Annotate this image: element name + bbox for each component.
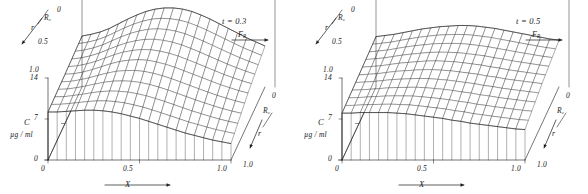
surface-plot-panel-right: r Rc 0.5 1.0 0 14 7 0 C µg / ml 0 0.5 1.… xyxy=(294,0,588,194)
z-axis-label-panel-left: C xyxy=(24,118,30,127)
r-axis-label-right-panel-left: r xyxy=(258,130,261,138)
x-axis-label-panel-left: X xyxy=(125,180,130,189)
rc-tick-left-panel-right: Rc xyxy=(338,14,345,23)
x-tick-0-panel-left: 0 xyxy=(41,165,45,173)
x-direction-arrow-head xyxy=(167,184,170,187)
x-tick-05-panel-left: 0.5 xyxy=(123,165,133,173)
x-axis-label-panel-right: X xyxy=(419,180,424,189)
rc-tick-right-panel-left: Rc xyxy=(263,107,270,116)
r-axis-label-left-panel-left: r xyxy=(31,24,34,32)
x-tick-10-panel-left: 1.0 xyxy=(217,165,227,173)
z-tick-7-panel-left: 7 xyxy=(34,114,38,122)
flow-label-panel-left: FR xyxy=(238,31,246,39)
r-top-tick-right-panel-right: 0 xyxy=(566,92,570,100)
flow-label-panel-right: FR xyxy=(532,31,540,39)
r-top-tick-right-panel-left: 0 xyxy=(272,92,276,100)
r-axis-label-right-panel-right: r xyxy=(552,130,555,138)
x-tick-05-panel-right: 0.5 xyxy=(417,165,427,173)
z-axis-units-panel-left: µg / ml xyxy=(10,131,33,139)
z-tick-7-panel-right: 7 xyxy=(328,114,332,122)
z-tick-14-panel-left: 14 xyxy=(30,74,38,82)
rc-tick-right-panel-right: Rc xyxy=(557,107,564,116)
x-tick-0-panel-right: 0 xyxy=(335,165,339,173)
r-bottom-tick-right-panel-left: 1.0 xyxy=(243,161,253,169)
z-axis-label-panel-right: C xyxy=(318,118,324,127)
surface-plot-panel-left: r Rc 0.5 1.0 0 14 7 0 C µg / ml 0 0.5 1.… xyxy=(0,0,294,194)
flow-direction-arrow-head xyxy=(559,39,562,42)
z-axis-units-panel-right: µg / ml xyxy=(304,131,327,139)
r-direction-arrow-right-head xyxy=(544,144,547,148)
flow-direction-arrow-head xyxy=(265,39,268,42)
r-axis-label-left-panel-right: r xyxy=(325,24,328,32)
r-tick-05-panel-left: 0.5 xyxy=(38,38,48,46)
r-direction-arrow-right-head xyxy=(250,144,253,148)
figure-canvas: r Rc 0.5 1.0 0 14 7 0 C µg / ml 0 0.5 1.… xyxy=(0,0,588,194)
r-top-tick-panel-right: 0 xyxy=(351,6,355,14)
z-tick-14-panel-right: 14 xyxy=(324,74,332,82)
r-tick-05-panel-right: 0.5 xyxy=(332,38,342,46)
z-tick-0-panel-left: 0 xyxy=(34,155,38,163)
r-top-tick-panel-left: 0 xyxy=(57,6,61,14)
x-tick-10-panel-right: 1.0 xyxy=(511,165,521,173)
x-direction-arrow-head xyxy=(461,184,464,187)
z-tick-0-panel-right: 0 xyxy=(328,155,332,163)
rc-tick-left-panel-left: Rc xyxy=(44,14,51,23)
time-annotation-panel-left: t = 0.3 xyxy=(222,17,246,26)
time-annotation-panel-right: t = 0.5 xyxy=(516,17,540,26)
r-bottom-tick-right-panel-right: 1.0 xyxy=(537,161,547,169)
